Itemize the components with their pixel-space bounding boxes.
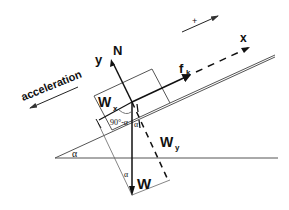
incline-diagram: acceleration + x y N f k W x W y W 90°-α… bbox=[0, 0, 289, 210]
angle-alpha-incline-label: α bbox=[72, 148, 78, 159]
normal-force-vector bbox=[113, 63, 132, 102]
angle-90-minus-alpha-label: 90°-α bbox=[110, 118, 129, 127]
angle-alpha-triangle-label: α bbox=[124, 170, 129, 179]
wx-tick bbox=[96, 119, 101, 128]
weight-label: W bbox=[137, 175, 152, 192]
y-axis-label: y bbox=[95, 52, 103, 67]
tick-mark-2 bbox=[139, 120, 140, 128]
friction-subscript: k bbox=[186, 68, 191, 77]
friction-label: f bbox=[179, 61, 184, 76]
weight-x-label: W bbox=[98, 94, 112, 110]
x-axis-arrowhead bbox=[241, 47, 250, 53]
acceleration-label: acceleration bbox=[19, 68, 83, 103]
wx-projection-line bbox=[98, 123, 132, 195]
angle-alpha-weight-label: α bbox=[134, 120, 139, 129]
weight-y-label: W bbox=[160, 134, 174, 150]
plus-label: + bbox=[192, 16, 197, 26]
normal-force-label: N bbox=[113, 43, 122, 58]
weight-x-subscript: x bbox=[113, 104, 118, 113]
weight-y-subscript: y bbox=[175, 143, 180, 152]
x-axis-label: x bbox=[240, 31, 247, 45]
incline-line-2 bbox=[170, 55, 275, 103]
tick-mark-1 bbox=[137, 104, 138, 112]
x-axis-dashed bbox=[196, 48, 248, 72]
plus-direction-arrow bbox=[182, 16, 218, 32]
angle-arc-90-alpha bbox=[119, 110, 131, 114]
